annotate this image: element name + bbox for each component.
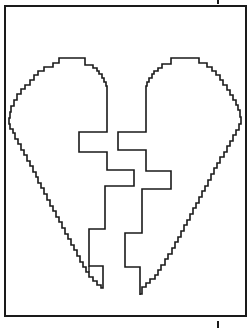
left-heart-half xyxy=(9,58,134,288)
right-heart-half xyxy=(118,58,241,295)
broken-heart-drawing xyxy=(0,0,249,328)
frame-border xyxy=(5,6,246,316)
broken-heart-figure: left heart half right heart half xyxy=(0,0,249,328)
